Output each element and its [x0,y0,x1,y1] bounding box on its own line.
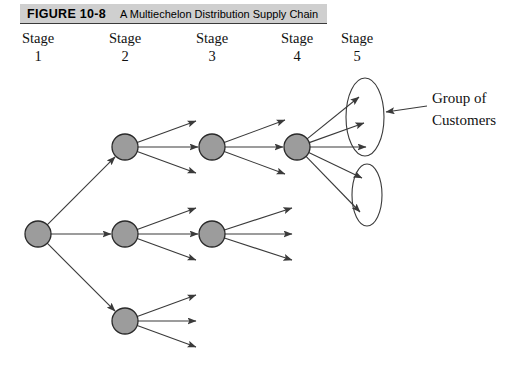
node-s4a [284,134,310,160]
annotation-line-2: Customers [432,110,496,132]
node-s3b [199,221,225,247]
edge-s4a-18 [307,97,359,139]
edge-s3a-14 [224,152,285,174]
edge-s2c-11 [137,325,196,347]
edge-s2c-9 [137,295,196,317]
annotation-line-1: Group of [432,88,496,110]
node-s1 [25,221,51,247]
edge-s4a-19 [309,123,364,143]
node-s3a [199,134,225,160]
node-s2b [112,221,138,247]
group-of-customers-annotation: Group of Customers [432,88,496,132]
edge-s2b-7 [137,208,196,230]
figure-page: FIGURE 10-8 A Multiechelon Distribution … [0,0,525,365]
node-s2c [112,308,138,334]
edge-s2a-4 [137,121,196,143]
edge-s1-0 [47,157,115,225]
edge-s3a-13 [224,120,285,142]
edge-s1-2 [47,243,115,311]
customer-group-group-top [346,78,384,156]
node-s2a [112,134,138,160]
edge-s2a-5 [137,151,196,173]
annotation-leader [386,106,427,112]
supply-chain-diagram [0,0,525,365]
customer-group-group-bottom [352,164,382,226]
edge-s3b-15 [224,208,292,230]
annotation-leader-line [386,106,427,112]
edge-s2b-8 [137,238,196,260]
edge-s4a-21 [309,153,362,178]
edge-s3b-17 [224,238,292,260]
